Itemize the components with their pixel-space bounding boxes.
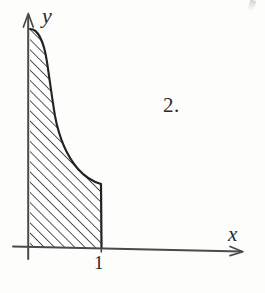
vertical-line-x-equals-1 [101, 184, 102, 248]
problem-number-label: 2. [163, 93, 180, 118]
hatched-region [30, 29, 101, 248]
x-tick-label-1: 1 [94, 252, 104, 274]
figure-canvas [0, 0, 265, 293]
page-bleedthrough-text [22, 272, 27, 288]
math-figure: y x 1 2. [0, 0, 265, 293]
x-axis [13, 247, 243, 256]
axis-label-y: y [42, 3, 52, 29]
axis-label-x: x [228, 222, 237, 247]
